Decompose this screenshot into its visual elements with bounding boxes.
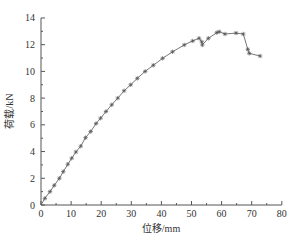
star-marker-icon — [217, 30, 221, 34]
star-marker-icon — [70, 156, 74, 160]
x-tick-label: 60 — [217, 208, 227, 219]
star-marker-icon — [151, 63, 155, 67]
star-marker-icon — [200, 43, 204, 47]
y-tick-label: 14 — [25, 12, 35, 23]
y-axis-ticks: 02468101214 — [25, 12, 45, 210]
star-marker-icon — [94, 121, 98, 125]
x-tick-label: 80 — [277, 208, 287, 219]
star-marker-icon — [66, 162, 70, 166]
y-tick-label: 4 — [30, 146, 35, 157]
star-marker-icon — [182, 43, 186, 47]
y-tick-label: 2 — [30, 173, 35, 184]
star-marker-icon — [143, 69, 147, 73]
load-displacement-chart: 01020304050607080 02468101214 位移/mm 荷载/k… — [0, 0, 297, 242]
y-tick-label: 6 — [30, 119, 35, 130]
x-axis-label: 位移/mm — [142, 222, 181, 234]
series-line — [41, 32, 260, 205]
star-marker-icon — [79, 144, 83, 148]
star-marker-icon — [191, 39, 195, 43]
star-marker-icon — [83, 135, 87, 139]
star-marker-icon — [48, 189, 52, 193]
star-marker-icon — [61, 169, 65, 173]
star-marker-icon — [104, 109, 108, 113]
star-marker-icon — [197, 36, 201, 40]
star-marker-icon — [258, 54, 262, 58]
y-tick-label: 12 — [25, 39, 35, 50]
star-marker-icon — [57, 176, 61, 180]
x-tick-label: 50 — [187, 208, 197, 219]
star-marker-icon — [74, 150, 78, 154]
star-marker-icon — [98, 116, 102, 120]
x-tick-label: 30 — [126, 208, 136, 219]
star-marker-icon — [241, 32, 245, 36]
x-tick-label: 10 — [66, 208, 76, 219]
x-tick-label: 40 — [156, 208, 166, 219]
y-tick-label: 8 — [30, 93, 35, 104]
star-marker-icon — [122, 89, 126, 93]
star-marker-icon — [88, 129, 92, 133]
star-marker-icon — [52, 183, 56, 187]
x-axis-ticks: 01020304050607080 — [39, 201, 287, 219]
y-tick-label: 10 — [25, 66, 35, 77]
x-tick-label: 20 — [96, 208, 106, 219]
star-marker-icon — [128, 83, 132, 87]
star-marker-icon — [247, 51, 251, 55]
star-marker-icon — [135, 76, 139, 80]
star-marker-icon — [170, 50, 174, 54]
star-marker-icon — [116, 96, 120, 100]
y-tick-label: 0 — [30, 200, 35, 211]
star-marker-icon — [234, 31, 238, 35]
x-tick-label: 70 — [247, 208, 257, 219]
x-tick-label: 0 — [39, 208, 44, 219]
star-marker-icon — [223, 32, 227, 36]
star-marker-icon — [160, 56, 164, 60]
y-axis-label: 荷载/kN — [4, 94, 15, 129]
axes — [41, 18, 282, 205]
star-marker-icon — [43, 196, 47, 200]
data-series — [41, 30, 262, 205]
star-marker-icon — [110, 103, 114, 107]
star-marker-icon — [206, 36, 210, 40]
star-marker-icon — [246, 47, 250, 51]
